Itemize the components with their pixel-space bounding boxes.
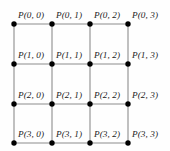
grid-node — [49, 61, 54, 66]
grid-node-label: P(2, 1) — [56, 91, 82, 100]
grid-node — [125, 61, 130, 66]
grid-node-label: P(2, 0) — [18, 91, 44, 100]
grid-node-label: P(3, 3) — [132, 130, 158, 139]
grid-node — [125, 21, 130, 26]
grid-node — [49, 21, 54, 26]
grid-node-label: P(0, 3) — [132, 11, 158, 20]
grid-node-label: P(1, 0) — [18, 51, 44, 60]
grid-node — [125, 101, 130, 106]
grid-node — [11, 21, 16, 26]
grid-node-label: P(1, 1) — [56, 51, 82, 60]
grid-node-label: P(3, 2) — [94, 130, 120, 139]
grid-node-label: P(0, 0) — [18, 11, 44, 20]
grid-node — [11, 101, 16, 106]
grid-lattice-figure: P(0, 0)P(0, 1)P(0, 2)P(0, 3)P(1, 0)P(1, … — [0, 0, 170, 151]
grid-node-label: P(0, 1) — [56, 11, 82, 20]
grid-node — [125, 140, 130, 145]
grid-node-label: P(3, 0) — [18, 130, 44, 139]
edge-layer — [14, 24, 128, 143]
grid-node — [49, 101, 54, 106]
grid-node-label: P(0, 2) — [94, 11, 120, 20]
grid-node — [87, 61, 92, 66]
grid-node-label: P(2, 2) — [94, 91, 120, 100]
grid-node-label: P(1, 2) — [94, 51, 120, 60]
grid-node — [49, 140, 54, 145]
grid-node — [87, 101, 92, 106]
grid-node — [87, 140, 92, 145]
grid-node-label: P(1, 3) — [132, 51, 158, 60]
grid-node-label: P(2, 3) — [132, 91, 158, 100]
grid-node — [11, 61, 16, 66]
grid-node — [87, 21, 92, 26]
grid-node-label: P(3, 1) — [56, 130, 82, 139]
grid-node — [11, 140, 16, 145]
node-layer — [11, 21, 130, 145]
